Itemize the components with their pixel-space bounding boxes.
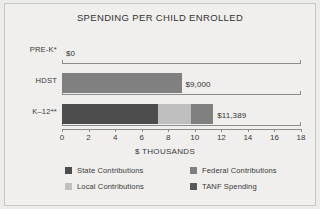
x-axis-tick (142, 129, 143, 132)
baseline-cap (300, 60, 301, 64)
bar-segment[interactable] (62, 73, 182, 93)
legend-item[interactable]: Federal Contributions (190, 166, 300, 175)
chart-legend: State ContributionsFederal Contributions… (65, 166, 297, 191)
legend-swatch-icon (190, 183, 197, 190)
legend-item[interactable]: Local Contributions (65, 182, 190, 191)
x-axis-tick-label: 6 (139, 133, 143, 142)
x-axis-tick (115, 129, 116, 132)
bar-value-label: $9,000 (186, 80, 211, 89)
row-baseline (62, 94, 301, 95)
x-axis-tick-label: 10 (190, 133, 199, 142)
plot-area: PRE-K*$0HDST$9,000K–12**$11,389 (62, 34, 301, 129)
x-axis-title: $ THOUSANDS (5, 147, 320, 156)
chart-row: HDST$9,000 (62, 65, 301, 95)
row-baseline (62, 63, 301, 64)
chart-row: PRE-K*$0 (62, 34, 301, 64)
legend-item[interactable]: State Contributions (65, 166, 190, 175)
category-label: PRE-K* (30, 45, 57, 54)
x-axis-tick (274, 129, 275, 132)
chart-title: SPENDING PER CHILD ENROLLED (5, 12, 315, 23)
category-label: HDST (36, 76, 57, 85)
stacked-bar[interactable] (62, 73, 182, 93)
x-axis-tick-label: 14 (243, 133, 252, 142)
legend-label: State Contributions (77, 166, 143, 175)
baseline-cap (300, 91, 301, 95)
x-axis-tick (195, 129, 196, 132)
x-axis-tick-label: 4 (113, 133, 117, 142)
x-axis-tick-label: 12 (217, 133, 226, 142)
x-axis-tick (62, 129, 63, 132)
row-baseline (62, 125, 301, 126)
x-axis: 024681012141618 (62, 129, 301, 147)
legend-item[interactable]: TANF Spending (190, 182, 300, 191)
x-axis-tick-label: 8 (166, 133, 170, 142)
x-axis-tick-label: 18 (297, 133, 306, 142)
legend-swatch-icon (190, 167, 197, 174)
category-label: K–12** (32, 107, 57, 116)
x-axis-tick (221, 129, 222, 132)
bar-segment[interactable] (62, 104, 158, 124)
bar-segment[interactable] (158, 104, 191, 124)
legend-swatch-icon (65, 183, 72, 190)
bar-value-label: $0 (66, 49, 75, 58)
stacked-bar[interactable] (62, 104, 213, 124)
bar-value-label: $11,389 (217, 111, 246, 120)
legend-label: Local Contributions (77, 182, 144, 191)
x-axis-tick-label: 16 (270, 133, 279, 142)
x-axis-tick (168, 129, 169, 132)
bar-segment[interactable] (191, 104, 213, 124)
legend-swatch-icon (65, 167, 72, 174)
chart-row: K–12**$11,389 (62, 96, 301, 126)
baseline-cap (300, 122, 301, 126)
chart-figure: SPENDING PER CHILD ENROLLED PRE-K*$0HDST… (4, 3, 316, 206)
x-axis-tick (248, 129, 249, 132)
legend-label: TANF Spending (202, 182, 257, 191)
x-axis-tick (89, 129, 90, 132)
x-axis-tick (301, 129, 302, 132)
x-axis-line (62, 129, 301, 130)
x-axis-tick-label: 2 (86, 133, 90, 142)
legend-label: Federal Contributions (202, 166, 277, 175)
x-axis-tick-label: 0 (60, 133, 64, 142)
baseline-cap (62, 60, 63, 64)
